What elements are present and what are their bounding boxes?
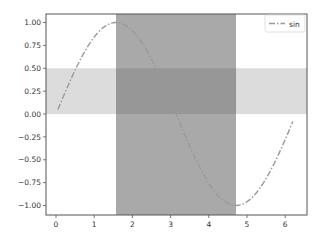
x-tick-label: 0	[54, 220, 59, 229]
y-tick-label: −0.75	[18, 178, 41, 187]
legend-label-sin: sin	[289, 20, 300, 29]
y-tick-label: 0.50	[24, 64, 41, 73]
legend: sin	[265, 15, 305, 32]
y-tick-label: 0.00	[24, 110, 41, 119]
overlap-shaded-region	[116, 68, 236, 114]
x-tick-label: 2	[130, 220, 135, 229]
x-axis-ticks: 0123456	[54, 215, 288, 229]
x-tick-label: 6	[283, 220, 288, 229]
y-tick-label: −1.00	[18, 201, 41, 210]
y-tick-label: −0.25	[18, 133, 41, 142]
x-tick-label: 4	[206, 220, 211, 229]
sine-chart: 0123456 1.000.750.500.250.00−0.25−0.50−0…	[0, 0, 324, 244]
x-tick-label: 3	[168, 220, 173, 229]
y-tick-label: −0.50	[18, 155, 41, 164]
y-tick-label: 0.25	[24, 87, 41, 96]
x-tick-label: 5	[245, 220, 250, 229]
y-tick-label: 1.00	[24, 18, 41, 27]
y-axis-ticks: 1.000.750.500.250.00−0.25−0.50−0.75−1.00	[18, 18, 46, 210]
x-tick-label: 1	[92, 220, 97, 229]
plot-area	[46, 14, 307, 215]
y-tick-label: 0.75	[24, 41, 41, 50]
